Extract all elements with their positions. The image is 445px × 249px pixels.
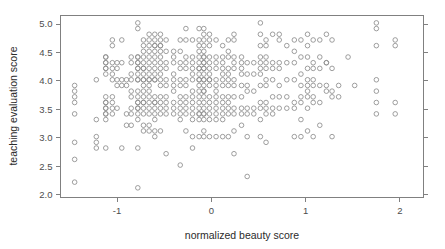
y-tick-label: 2.5 — [39, 161, 52, 172]
scatter-plot-figure: -1012 2.02.53.03.54.04.55.0 normalized b… — [0, 0, 445, 249]
plot-canvas: -1012 2.02.53.03.54.04.55.0 normalized b… — [0, 0, 445, 249]
y-tick-label: 4.0 — [39, 75, 52, 86]
y-tick-label: 2.0 — [39, 189, 52, 200]
x-tick-label: 0 — [209, 205, 214, 216]
x-tick-label: -1 — [113, 205, 121, 216]
x-axis-title: normalized beauty score — [185, 229, 300, 241]
y-tick-label: 3.5 — [39, 104, 52, 115]
x-tick-label: 1 — [303, 205, 308, 216]
plot-background — [0, 0, 445, 249]
y-tick-label: 3.0 — [39, 132, 52, 143]
x-tick-label: 2 — [397, 205, 402, 216]
y-tick-label: 5.0 — [39, 18, 52, 29]
y-axis-title: teaching evaluation score — [7, 46, 19, 165]
y-tick-label: 4.5 — [39, 47, 52, 58]
